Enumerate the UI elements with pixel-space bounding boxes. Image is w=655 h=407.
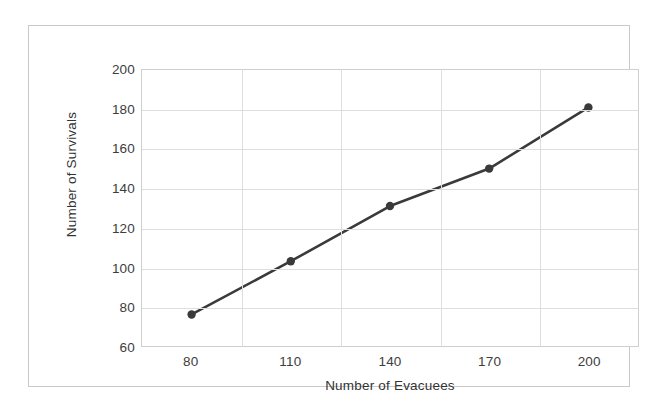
figure-frame: Number of Survivals 60801001201401601802… [28,25,630,387]
gridline-vertical [341,70,342,346]
y-axis-tick-label: 80 [89,300,135,315]
x-axis-tick-label: 200 [559,354,619,369]
data-point-marker: 80, 76 [187,310,195,318]
gridline-horizontal [142,149,638,150]
plot-area: 80, 76110, 103140, 131170, 150200, 181 [141,69,639,347]
series-line [192,107,589,314]
y-axis-title: Number of Survivals [64,75,79,275]
data-point-marker: 170, 150 [485,164,493,172]
x-axis-tick-label: 80 [161,354,221,369]
line-series: 80, 76110, 103140, 131170, 150200, 181 [142,70,638,346]
y-axis-tick-label: 60 [89,340,135,355]
x-axis-tick-label: 170 [460,354,520,369]
x-axis-tick-label: 140 [360,354,420,369]
y-axis-tick-labels: 6080100120140160180200 [81,69,135,347]
y-axis-tick-label: 120 [89,220,135,235]
x-axis-tick-label: 110 [260,354,320,369]
y-axis-tick-label: 140 [89,181,135,196]
gridline-horizontal [142,229,638,230]
gridline-vertical [441,70,442,346]
x-axis-title: Number of Evacuees [141,378,639,393]
y-axis-tick-label: 180 [89,101,135,116]
gridline-horizontal [142,110,638,111]
y-axis-tick-label: 100 [89,260,135,275]
y-axis-tick-label: 160 [89,141,135,156]
y-axis-tick-label: 200 [89,62,135,77]
data-point-marker: 140, 131 [386,202,394,210]
data-point-marker: 110, 103 [287,257,295,265]
gridline-horizontal [142,308,638,309]
x-axis-tick-labels: 80110140170200 [141,354,639,374]
gridline-vertical [242,70,243,346]
gridline-horizontal [142,189,638,190]
gridline-horizontal [142,269,638,270]
gridline-vertical [540,70,541,346]
